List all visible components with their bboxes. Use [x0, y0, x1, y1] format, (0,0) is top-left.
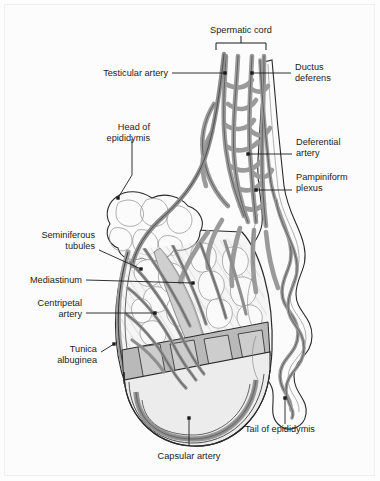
- spermatic-cord-label: Spermatic cord: [210, 25, 272, 35]
- label-text-deferential-artery: Deferentialartery: [296, 137, 340, 158]
- label-line: Tunica: [70, 344, 98, 354]
- leader-dot-tail-of-epididymis: [283, 396, 286, 399]
- label-line: albuginea: [57, 355, 98, 365]
- spermatic-cord-bracket: [216, 36, 266, 50]
- label-text-centripetal-artery: Centripetalartery: [38, 298, 83, 319]
- label-text-mediastinum: Mediastinum: [30, 275, 82, 285]
- leader-dot-seminiferous-tubules: [139, 267, 142, 270]
- label-text-tail-of-epididymis: Tail of epididymis: [245, 424, 315, 434]
- label-text-head-of-epididymis: Head ofepididymis: [107, 122, 151, 143]
- label-line: Deferential: [296, 137, 340, 147]
- label-line: deferens: [295, 73, 331, 83]
- leader-line-tunica-albuginea: [101, 344, 114, 352]
- label-line: Capsular artery: [158, 451, 221, 461]
- leader-dot-testicular-artery: [223, 71, 226, 74]
- label-text-seminiferous-tubules: Seminiferoustubules: [41, 230, 95, 251]
- label-line: Pampiniform: [296, 172, 348, 182]
- label-line: artery: [59, 309, 83, 319]
- leader-dot-head-of-epididymis: [116, 196, 119, 199]
- label-line: artery: [296, 148, 320, 158]
- leader-dot-pampiniform-plexus: [254, 188, 257, 191]
- label-tunica-albuginea: Tunicaalbuginea: [57, 342, 116, 365]
- label-line: epididymis: [107, 133, 151, 143]
- label-text-capsular-artery: Capsular artery: [158, 451, 221, 461]
- label-text-testicular-artery: Testicular artery: [103, 68, 168, 78]
- label-line: Mediastinum: [30, 275, 82, 285]
- leader-dot-centripetal-artery: [153, 311, 156, 314]
- anatomical-figure: Testicular arteryDuctusdeferensHead ofep…: [0, 0, 380, 481]
- label-line: tubules: [65, 241, 95, 251]
- leader-dot-mediastinum: [191, 281, 194, 284]
- label-text-tunica-albuginea: Tunicaalbuginea: [57, 344, 98, 365]
- leader-line-head-of-epididymis: [118, 139, 132, 198]
- leader-dot-deferential-artery: [246, 152, 249, 155]
- label-testicular-artery: Testicular artery: [103, 68, 227, 78]
- label-text-pampiniform-plexus: Pampiniformplexus: [296, 172, 348, 193]
- label-line: Seminiferous: [41, 230, 95, 240]
- label-line: Tail of epididymis: [245, 424, 315, 434]
- label-text-ductus-deferens: Ductusdeferens: [295, 62, 331, 83]
- label-head-of-epididymis: Head ofepididymis: [107, 122, 151, 200]
- label-line: Head of: [118, 122, 151, 132]
- label-line: plexus: [296, 183, 323, 193]
- leader-dot-tunica-albuginea: [112, 342, 115, 345]
- label-line: Centripetal: [38, 298, 82, 308]
- label-line: Ductus: [295, 62, 324, 72]
- leader-dot-ductus-deferens: [250, 71, 253, 74]
- label-line: Testicular artery: [103, 68, 168, 78]
- leader-dot-capsular-artery: [187, 416, 190, 419]
- testis-blood-supply-illustration: Testicular arteryDuctusdeferensHead ofep…: [0, 0, 380, 481]
